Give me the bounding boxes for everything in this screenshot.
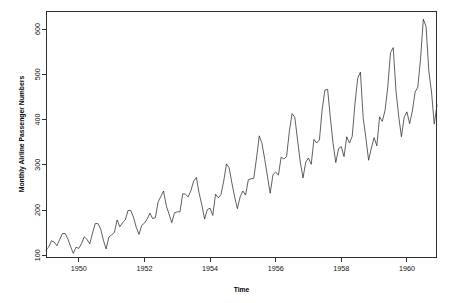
x-tick-label: 1958 (333, 264, 349, 273)
y-tick-label: 500 (33, 68, 42, 80)
y-tick-label: 600 (33, 23, 42, 35)
y-tick-label: 300 (33, 159, 42, 171)
x-tick-label: 1960 (399, 264, 415, 273)
y-tick-label: 200 (33, 204, 42, 216)
x-tick-label: 1954 (202, 264, 218, 273)
x-axis-title: Time (234, 286, 250, 293)
y-tick-label: 100 (33, 249, 42, 261)
x-tick-label: 1950 (71, 264, 87, 273)
y-axis-title: Monthly Airline Passenger Numbers (18, 76, 26, 193)
x-tick-label: 1952 (136, 264, 152, 273)
x-tick-label: 1956 (268, 264, 284, 273)
y-tick-label: 400 (33, 114, 42, 126)
chart-screenshot: 195019521954195619581960 100200300400500… (0, 0, 453, 303)
airpassengers-plot: 195019521954195619581960 100200300400500… (0, 0, 453, 303)
